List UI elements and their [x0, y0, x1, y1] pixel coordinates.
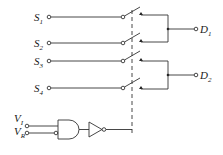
d1-terminal	[194, 27, 198, 31]
output-d2: D2	[167, 61, 212, 89]
s3-label: S3	[34, 55, 44, 70]
switch-1	[121, 7, 168, 19]
d1-label: D1	[199, 23, 211, 38]
d2-terminal	[194, 73, 198, 77]
switch-3	[121, 51, 168, 63]
s2-terminal	[47, 41, 51, 45]
switch-2	[121, 33, 168, 45]
vr-inversion-bubble	[54, 131, 58, 135]
inverter-buffer	[89, 122, 102, 137]
input-s3: S3	[34, 55, 121, 70]
s4-label: S4	[34, 82, 44, 97]
input-s1: S1	[34, 11, 121, 26]
vr-label: VR	[14, 125, 26, 140]
and-gate	[58, 120, 79, 139]
s3-terminal	[47, 59, 51, 63]
d2-label: D2	[199, 69, 212, 84]
s1-label: S1	[34, 11, 43, 26]
input-s4: S4	[34, 82, 121, 97]
input-vr: VR	[14, 125, 58, 140]
inverter-bubble	[102, 128, 106, 132]
s1-terminal	[47, 15, 51, 19]
switch-4	[121, 78, 168, 90]
circuit-diagram: S1 S2 S3 S4	[0, 0, 223, 155]
vr-terminal	[25, 131, 29, 135]
s2-label: S2	[34, 37, 44, 52]
s4-terminal	[47, 86, 51, 90]
vi-terminal	[25, 124, 29, 128]
output-d1: D1	[167, 15, 212, 42]
input-s2: S2	[34, 37, 121, 52]
